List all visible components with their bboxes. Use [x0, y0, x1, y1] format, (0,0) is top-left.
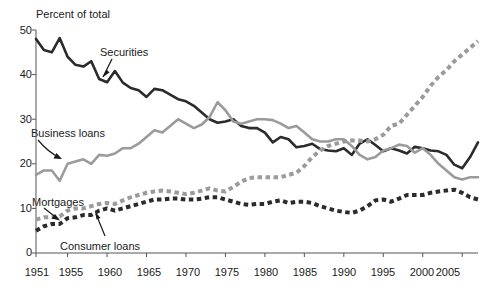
series-line-mortgages	[36, 41, 478, 219]
y-axis-ticks	[32, 30, 36, 253]
series-line-consumer-loans	[36, 190, 478, 231]
series-lines	[36, 38, 478, 231]
chart-container: Percent of total 50 40 30 20 10 0 1951 1…	[0, 0, 489, 297]
arrow-securities-head	[103, 70, 110, 78]
plot-area	[0, 0, 489, 297]
x-axis-ticks	[36, 253, 462, 257]
series-line-business-loans	[36, 102, 478, 181]
axes	[32, 30, 478, 257]
arrow-business-loans-head	[54, 153, 63, 159]
